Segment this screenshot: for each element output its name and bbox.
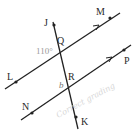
label-p: P [124,55,130,66]
handwritten-note: Correct grading [55,81,117,120]
point-j [52,23,55,26]
geometry-diagram: J M Q 110° L R b P N K Correct grading [0,0,139,134]
line-lm [5,13,120,89]
point-k [74,115,77,118]
point-l [14,80,17,83]
label-k: K [81,116,89,127]
variable-b: b [59,80,64,90]
point-p [122,48,125,51]
label-r: R [68,71,75,82]
label-n: N [22,101,29,112]
label-q: Q [57,35,65,46]
point-m [108,16,111,19]
angle-label: 110° [36,46,53,56]
label-m: M [96,6,105,17]
label-l: L [7,71,13,82]
point-n [30,111,33,114]
label-j: J [44,17,48,28]
